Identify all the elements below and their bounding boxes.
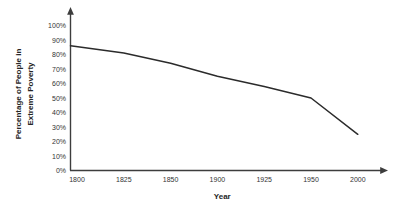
x-tick-label: 1800 <box>69 176 85 183</box>
y-tick-label: 40% <box>52 109 66 116</box>
x-tick-label: 1925 <box>256 176 272 183</box>
y-tick-label: 80% <box>52 51 66 58</box>
y-tick-label: 30% <box>52 124 66 131</box>
x-axis-title: Year <box>214 192 231 201</box>
y-tick-label: 0% <box>56 167 66 174</box>
y-tick-label: 70% <box>52 66 66 73</box>
y-tick-label: 90% <box>52 37 66 44</box>
y-axis-title-line: Extreme Poverty <box>26 62 35 126</box>
y-tick-label: 100% <box>48 22 66 29</box>
poverty-trend-line <box>71 46 358 135</box>
y-tick-label: 20% <box>52 138 66 145</box>
chart-canvas: 0%10%20%30%40%50%60%70%80%90%100%1800182… <box>0 0 395 212</box>
x-tick-label: 1850 <box>163 176 179 183</box>
extreme-poverty-line-chart: 0%10%20%30%40%50%60%70%80%90%100%1800182… <box>0 0 395 212</box>
x-tick-label: 1825 <box>116 176 132 183</box>
y-tick-label: 50% <box>52 95 66 102</box>
x-axis-arrow-icon <box>380 167 388 174</box>
y-axis-arrow-icon <box>67 7 74 15</box>
x-tick-label: 2000 <box>350 176 366 183</box>
y-tick-label: 60% <box>52 80 66 87</box>
x-tick-label: 1950 <box>303 176 319 183</box>
x-tick-label: 1900 <box>210 176 226 183</box>
y-tick-label: 10% <box>52 153 66 160</box>
y-axis-title: Percentage of People inExtreme Poverty <box>14 49 35 140</box>
y-axis-title-line: Percentage of People in <box>14 49 23 140</box>
